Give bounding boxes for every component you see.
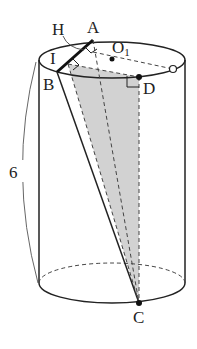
- height-bracket: [22, 62, 38, 283]
- label-o1-sub: 1: [124, 46, 130, 58]
- diameter-line: [93, 52, 173, 69]
- label-o1: O1: [112, 38, 130, 58]
- label-i: I: [50, 49, 56, 68]
- label-d: D: [143, 79, 155, 98]
- label-c: C: [133, 308, 144, 327]
- point-d: [136, 74, 142, 80]
- point-open: [170, 66, 177, 73]
- point-c: [136, 300, 142, 306]
- height-label: 6: [9, 163, 18, 182]
- label-h: H: [52, 20, 64, 39]
- label-b: B: [43, 75, 54, 94]
- bottom-ellipse-front: [39, 283, 185, 303]
- cylinder-diagram: 6 H A I B O1 D C: [0, 0, 197, 349]
- point-o1: [110, 57, 115, 62]
- label-a: A: [87, 18, 100, 37]
- bottom-ellipse-back: [39, 263, 185, 283]
- label-o1-main: O: [112, 38, 124, 57]
